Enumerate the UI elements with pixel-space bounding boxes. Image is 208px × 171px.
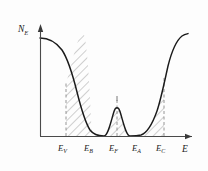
tick-label-eb: EB xyxy=(83,143,93,154)
hatched-regions xyxy=(60,20,170,140)
conduction-band-tail-hatch xyxy=(136,60,170,140)
tick-ef-sub: F xyxy=(113,148,118,154)
y-axis-label: NE xyxy=(17,24,28,36)
tick-ec-sub: C xyxy=(161,148,166,154)
y-axis-arrowhead xyxy=(38,24,43,32)
x-tick-labels: EV EB EF EA EC xyxy=(57,143,166,154)
x-axis-arrowhead xyxy=(185,134,192,139)
tick-label-ec: EC xyxy=(155,143,166,154)
x-axis-label: E xyxy=(181,144,188,154)
tick-label-ea: EA xyxy=(131,143,141,154)
fermi-defect-band-hatch xyxy=(100,95,136,140)
density-of-states-figure: NE E EV EB EF EA EC xyxy=(0,0,208,171)
tick-ea-sub: A xyxy=(136,148,141,154)
tick-label-ev: EV xyxy=(57,143,68,154)
chart-canvas: NE E EV EB EF EA EC xyxy=(0,0,208,171)
tick-eb-sub: B xyxy=(89,148,93,154)
y-axis-label-sub: E xyxy=(23,29,28,36)
tick-ev-sub: V xyxy=(63,148,68,154)
tick-label-ef: EF xyxy=(108,143,118,154)
x-axis-label-main: E xyxy=(181,144,188,154)
